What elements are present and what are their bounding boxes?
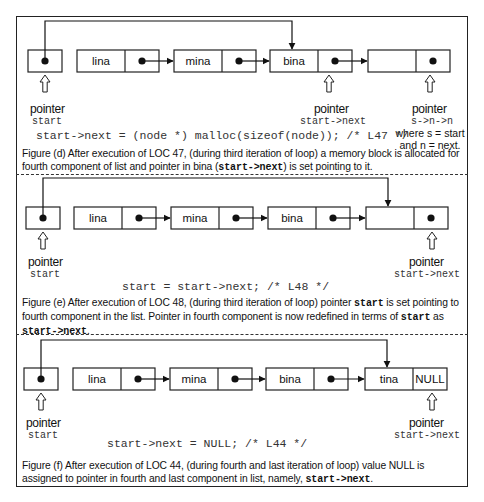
panel-d-right-pointer-word: pointer — [412, 102, 447, 116]
list-node: bina — [268, 207, 365, 229]
panel-e-caption: Figure (e) After execution of LOC 48, (d… — [22, 296, 462, 338]
list-node: bina — [266, 368, 364, 390]
node-next-text: NULL — [415, 373, 445, 385]
panel-d-caption: Figure (d) After execution of LOC 47, (d… — [22, 147, 462, 174]
panel-d-mid-pointer-word: pointer — [314, 102, 349, 116]
panel-f-start-pointer-word: pointer — [26, 416, 61, 430]
node-data-text: lina — [88, 373, 107, 385]
list-node: mina — [174, 50, 269, 72]
panel-d-diagram: linaminabina — [28, 21, 450, 92]
node-box — [366, 207, 448, 229]
node-data-text: lina — [89, 212, 108, 224]
caption-text: ) is set pointing to it. — [283, 161, 372, 172]
pointer-up-arrow-icon — [427, 232, 437, 249]
panel-f-code-line: start->next = NULL; /* L44 */ — [107, 437, 307, 450]
node-data-text: lina — [92, 55, 111, 67]
caption-code: start->next — [22, 326, 87, 337]
list-node: lina — [73, 368, 169, 390]
panel-d-code-line: start->next = (node *) malloc(sizeof(nod… — [36, 129, 409, 142]
caption-code: start->next — [305, 474, 370, 485]
start-pointer-up-arrow-icon — [40, 75, 50, 92]
caption-code: start — [354, 298, 384, 309]
pointer-dot — [429, 57, 436, 64]
caption-code: start->next — [218, 162, 283, 173]
panel-e-right-pointer-name: start->next — [394, 269, 460, 280]
caption-code: start — [401, 312, 431, 323]
caption-text: as — [430, 311, 443, 322]
node-data-text: tina — [380, 373, 399, 385]
start-pointer-up-arrow-icon — [38, 232, 48, 249]
panel-d-start-pointer-word: pointer — [30, 102, 65, 116]
node-data-text: bina — [283, 55, 305, 67]
node-box — [368, 50, 450, 72]
node-data-text: mina — [182, 373, 208, 385]
panel-d-start-pointer-name: start — [32, 116, 62, 127]
list-node: tinaNULL — [365, 368, 447, 390]
panel-f-start-pointer-name: start — [28, 430, 58, 441]
node-data-text: mina — [186, 55, 212, 67]
caption-text: . — [370, 473, 373, 484]
node-data-text: bina — [279, 373, 301, 385]
node-data-text: mina — [183, 212, 209, 224]
panel-f-right-pointer-name: start->next — [394, 430, 460, 441]
list-node: lina — [74, 207, 170, 229]
node-data-text: bina — [281, 212, 303, 224]
start-pointer-up-arrow-icon — [36, 393, 46, 410]
list-node — [368, 50, 450, 72]
panel-f-diagram: linaminabinatinaNULL — [24, 340, 447, 410]
pointer-up-arrow-icon — [324, 75, 334, 92]
panel-e-start-pointer-word: pointer — [28, 255, 63, 269]
panel-e-right-pointer-word: pointer — [409, 255, 444, 269]
panel-d-right-pointer-name: s->n->n — [411, 116, 453, 127]
pointer-dot — [427, 214, 434, 221]
panel-f-right-pointer-word: pointer — [409, 416, 444, 430]
panel-e-start-pointer-name: start — [30, 269, 60, 280]
pointer-up-arrow-icon — [427, 393, 437, 410]
caption-text: . — [87, 325, 90, 336]
caption-text: Figure (e) After execution of LOC 48, (d… — [22, 297, 354, 308]
list-node: lina — [77, 50, 173, 72]
list-node: mina — [171, 207, 267, 229]
list-node: mina — [170, 368, 265, 390]
panel-e-code-line: start = start->next; /* L48 */ — [122, 280, 329, 293]
panel-d-mid-pointer-name: start->next — [300, 116, 366, 127]
panel-e-diagram: linaminabina — [26, 178, 448, 249]
pointer-up-arrow-icon — [425, 75, 435, 92]
list-node — [366, 207, 448, 229]
panel-f-caption: Figure (f) After execution of LOC 44, (d… — [22, 459, 462, 486]
list-node: bina — [270, 50, 367, 72]
